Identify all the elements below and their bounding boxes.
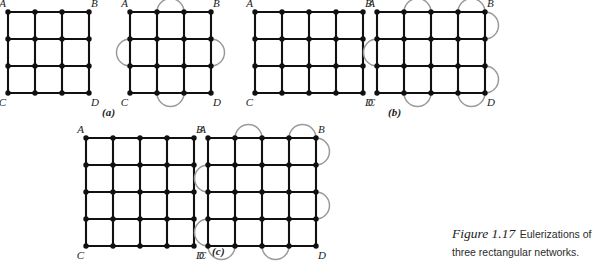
- graph-vertex: [164, 162, 169, 167]
- corner-label-d: D: [486, 96, 495, 108]
- graph-vertex: [259, 243, 264, 248]
- graph-vertex: [482, 36, 487, 41]
- panel-label-a: (a): [102, 106, 115, 118]
- graph-vertex: [313, 162, 318, 167]
- original-network-b: ABCD: [239, 0, 379, 109]
- graph-vertex: [286, 189, 291, 194]
- graph-vertex: [455, 63, 460, 68]
- original-network-c: ABCD: [70, 122, 210, 262]
- corner-label-d: D: [90, 96, 99, 108]
- graph-vertex: [110, 216, 115, 221]
- graph-vertex: [286, 135, 291, 140]
- graph-vertex: [110, 189, 115, 194]
- graph-vertex: [482, 90, 487, 95]
- graph-vertex: [86, 90, 91, 95]
- eulerization-arc-right: [316, 192, 330, 219]
- corner-label-c: C: [77, 249, 85, 261]
- graph-vertex: [313, 216, 318, 221]
- graph-vertex: [259, 135, 264, 140]
- eulerization-arc-top: [235, 125, 262, 139]
- eulerization-arc-left: [117, 39, 131, 66]
- corner-label-b: B: [91, 0, 98, 9]
- graph-vertex: [279, 63, 284, 68]
- graph-vertex: [313, 243, 318, 248]
- graph-vertex: [286, 243, 291, 248]
- corner-label-a: A: [120, 0, 128, 9]
- graph-vertex: [154, 90, 159, 95]
- graph-vertex: [455, 9, 460, 14]
- graph-vertex: [5, 90, 10, 95]
- graph-vertex: [313, 189, 318, 194]
- graph-vertex: [137, 135, 142, 140]
- eulerization-arc-top: [404, 0, 431, 12]
- corner-label-a: A: [245, 0, 253, 9]
- graph-vertex: [137, 243, 142, 248]
- panel-label-c: (c): [212, 245, 225, 257]
- eulerization-arc-right: [485, 12, 499, 39]
- eulerized-network-c: ABCD: [192, 122, 332, 262]
- figure-caption: Figure 1.17 Eulerizations of three recta…: [452, 224, 604, 260]
- graph-vertex: [428, 90, 433, 95]
- graph-vertex: [86, 36, 91, 41]
- graph-vertex: [137, 162, 142, 167]
- graph-vertex: [306, 63, 311, 68]
- graph-vertex: [279, 90, 284, 95]
- graph-vertex: [232, 162, 237, 167]
- edge-layer: [130, 12, 211, 93]
- graph-vertex: [232, 135, 237, 140]
- graph-vertex: [59, 63, 64, 68]
- graph-vertex: [208, 9, 213, 14]
- graph-vertex: [208, 36, 213, 41]
- caption-title: Figure 1.17: [452, 226, 515, 241]
- graph-vertex: [333, 9, 338, 14]
- graph-vertex: [5, 36, 10, 41]
- corner-label-a: A: [76, 123, 84, 135]
- graph-vertex: [127, 90, 132, 95]
- graph-vertex: [86, 9, 91, 14]
- original-network-a: ABCD: [0, 0, 105, 109]
- graph-vertex: [401, 90, 406, 95]
- eulerization-arc-bottom: [157, 93, 184, 107]
- graph-vertex: [154, 63, 159, 68]
- graph-vertex: [5, 63, 10, 68]
- vertex-layer: [5, 9, 91, 95]
- panel-label-b: (b): [388, 106, 401, 118]
- eulerization-arc-top: [458, 0, 485, 12]
- graph-vertex: [252, 9, 257, 14]
- eulerized-network-b: ABCD: [361, 0, 501, 109]
- graph-vertex: [205, 135, 210, 140]
- graph-vertex: [286, 216, 291, 221]
- graph-vertex: [482, 9, 487, 14]
- graph-vertex: [401, 36, 406, 41]
- graph-vertex: [110, 243, 115, 248]
- edge-layer: [255, 12, 363, 93]
- arc-layer: [117, 0, 225, 107]
- graph-vertex: [306, 9, 311, 14]
- graph-vertex: [110, 135, 115, 140]
- graph-vertex: [205, 189, 210, 194]
- graph-vertex: [455, 90, 460, 95]
- graph-vertex: [83, 189, 88, 194]
- corner-label-c: C: [199, 249, 207, 261]
- graph-vertex: [374, 36, 379, 41]
- graph-vertex: [164, 135, 169, 140]
- eulerization-arc-bottom: [458, 93, 485, 107]
- graph-vertex: [252, 36, 257, 41]
- corner-label-d: D: [317, 249, 326, 261]
- graph-vertex: [232, 189, 237, 194]
- graph-vertex: [32, 36, 37, 41]
- graph-vertex: [164, 243, 169, 248]
- eulerization-arc-right: [316, 138, 330, 165]
- graph-vertex: [374, 90, 379, 95]
- corner-label-b: B: [318, 123, 325, 135]
- graph-vertex: [205, 162, 210, 167]
- graph-vertex: [59, 90, 64, 95]
- graph-vertex: [313, 135, 318, 140]
- graph-vertex: [32, 9, 37, 14]
- graph-vertex: [154, 36, 159, 41]
- graph-vertex: [374, 63, 379, 68]
- graph-vertex: [252, 90, 257, 95]
- graph-vertex: [32, 90, 37, 95]
- graph-vertex: [154, 9, 159, 14]
- graph-vertex: [259, 216, 264, 221]
